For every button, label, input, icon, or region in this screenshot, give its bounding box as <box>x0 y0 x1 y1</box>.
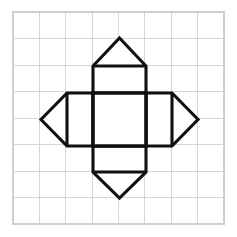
center-square <box>93 93 146 146</box>
figure-canvas <box>0 0 237 237</box>
geometric-net-figure <box>0 0 237 237</box>
